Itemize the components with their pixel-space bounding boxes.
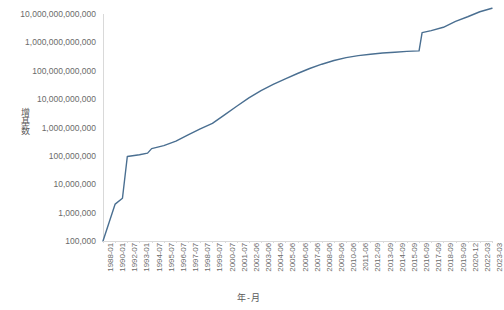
x-tick-mark (139, 241, 140, 243)
x-tick-label: 1994-07 (155, 243, 164, 272)
x-tick-label: 1990-01 (118, 243, 127, 272)
x-tick-label: 2018-09 (446, 243, 455, 272)
x-tick-label: 2000-07 (228, 243, 237, 272)
x-tick-mark (334, 241, 335, 243)
x-tick-label: 2013-09 (386, 243, 395, 272)
x-tick-mark (310, 241, 311, 243)
x-tick-mark (468, 241, 469, 243)
x-tick-label: 1997-07 (191, 243, 200, 272)
x-tick-label: 1998-07 (203, 243, 212, 272)
y-tick-label: 1,000,000,000 (42, 123, 96, 133)
x-tick-label: 1988-01 (106, 243, 115, 272)
x-tick-mark (395, 241, 396, 243)
x-tick-mark (383, 241, 384, 243)
x-tick-mark (346, 241, 347, 243)
x-tick-mark (176, 241, 177, 243)
x-tick-label: 1993-01 (142, 243, 151, 272)
x-tick-mark (431, 241, 432, 243)
x-tick-mark (456, 241, 457, 243)
x-tick-label: 2020-12 (471, 243, 480, 272)
x-tick-label: 2012-09 (373, 243, 382, 272)
y-tick-label: 100,000,000,000 (32, 66, 96, 76)
y-tick-label: 10,000,000,000 (37, 94, 96, 104)
x-tick-mark (492, 241, 493, 243)
x-tick-mark (298, 241, 299, 243)
y-axis-tick-labels: 10,000,000,000,0001,000,000,000,000100,0… (0, 0, 100, 245)
x-tick-mark (407, 241, 408, 243)
x-tick-label: 2004-06 (276, 243, 285, 272)
x-tick-mark (152, 241, 153, 243)
x-tick-mark (212, 241, 213, 243)
x-axis-tick-labels: 1988-011990-011992-071993-011994-071995-… (0, 243, 498, 293)
x-tick-mark (285, 241, 286, 243)
data-series-polyline (103, 8, 492, 241)
x-tick-label: 1995-07 (167, 243, 176, 272)
x-tick-label: 2007-06 (313, 243, 322, 272)
y-tick-label: 10,000,000 (53, 179, 96, 189)
x-tick-label: 2014-09 (398, 243, 407, 272)
x-tick-mark (200, 241, 201, 243)
x-tick-mark (237, 241, 238, 243)
x-tick-mark (188, 241, 189, 243)
x-tick-mark (127, 241, 128, 243)
x-tick-label: 2019-09 (459, 243, 468, 272)
y-tick-label: 100,000,000 (49, 151, 96, 161)
x-tick-label: 2017-09 (434, 243, 443, 272)
x-tick-label: 2001-07 (240, 243, 249, 272)
x-tick-label: 1996-07 (179, 243, 188, 272)
x-tick-mark (115, 241, 116, 243)
x-tick-mark (103, 241, 104, 243)
x-tick-label: 2008-06 (325, 243, 334, 272)
y-axis-line (103, 14, 104, 241)
y-tick-label: 10,000,000,000,000 (20, 9, 96, 19)
x-tick-mark (419, 241, 420, 243)
x-tick-mark (261, 241, 262, 243)
x-tick-label: 1999-07 (215, 243, 224, 272)
y-tick-label: 1,000,000 (58, 208, 96, 218)
x-axis-title: 年-月 (0, 291, 498, 304)
x-tick-label: 2015-09 (410, 243, 419, 272)
x-tick-mark (249, 241, 250, 243)
x-tick-label: 2010-06 (349, 243, 358, 272)
x-tick-label: 2006-06 (301, 243, 310, 272)
x-tick-label: 2005-06 (288, 243, 297, 272)
x-tick-mark (370, 241, 371, 243)
x-tick-label: 2022-03 (483, 243, 492, 272)
x-tick-mark (358, 241, 359, 243)
x-tick-label: 2002-06 (252, 243, 261, 272)
x-tick-label: 2003-06 (264, 243, 273, 272)
y-tick-label: 1,000,000,000,000 (25, 37, 96, 47)
x-tick-label: 2023-03 (495, 243, 504, 272)
x-tick-mark (480, 241, 481, 243)
x-tick-mark (164, 241, 165, 243)
x-tick-label: 2009-06 (337, 243, 346, 272)
x-tick-mark (443, 241, 444, 243)
x-tick-mark (225, 241, 226, 243)
x-tick-label: 2016-09 (422, 243, 431, 272)
x-tick-label: 1992-07 (130, 243, 139, 272)
x-tick-mark (273, 241, 274, 243)
x-tick-label: 2011-06 (361, 243, 370, 271)
x-tick-mark (322, 241, 323, 243)
